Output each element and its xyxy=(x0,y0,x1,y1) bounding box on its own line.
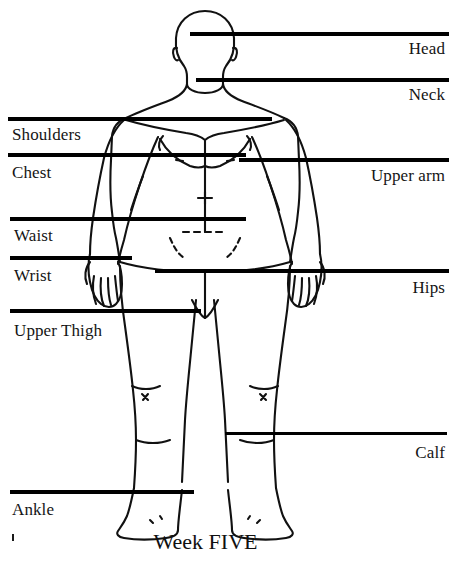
measure-line-ankle xyxy=(10,490,194,494)
week-caption: Week FIVE xyxy=(0,531,411,553)
measure-line-neck xyxy=(196,78,449,82)
label-chest: Chest xyxy=(12,164,51,181)
label-waist: Waist xyxy=(14,227,53,244)
label-calf: Calf xyxy=(415,444,445,461)
measurement-lines-layer: Head Neck Shoulders Chest Upper arm Wais… xyxy=(0,0,457,573)
measure-line-waist xyxy=(10,217,246,221)
measure-line-upper-thigh xyxy=(10,309,201,313)
label-upper-arm: Upper arm xyxy=(371,167,445,184)
label-ankle: Ankle xyxy=(12,501,54,518)
label-upper-thigh: Upper Thigh xyxy=(14,322,102,339)
label-head: Head xyxy=(409,40,445,57)
measure-line-upper-arm xyxy=(239,158,449,162)
body-measurement-diagram: Head Neck Shoulders Chest Upper arm Wais… xyxy=(0,0,457,573)
measure-line-head xyxy=(190,32,449,36)
label-neck: Neck xyxy=(409,86,445,103)
measure-line-wrist xyxy=(10,256,132,260)
label-hips: Hips xyxy=(412,279,445,296)
label-shoulders: Shoulders xyxy=(12,126,81,143)
measure-line-chest xyxy=(8,153,246,157)
measure-line-hips xyxy=(155,269,449,273)
measure-line-shoulders xyxy=(8,117,272,121)
label-wrist: Wrist xyxy=(14,267,52,284)
measure-line-calf xyxy=(225,432,447,435)
